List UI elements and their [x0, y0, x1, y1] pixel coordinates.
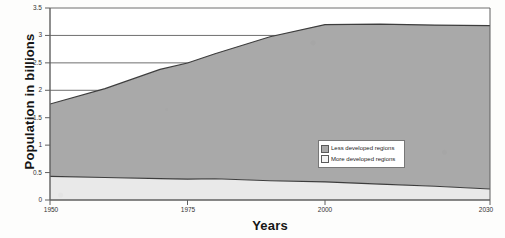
chart-legend: Less developed regions More developed re… [318, 140, 405, 168]
x-tick-label-1950: 1950 [31, 206, 71, 213]
y-tick-label-0: 0 [20, 196, 42, 203]
x-tick-marks [50, 200, 490, 205]
x-tick-label-2000: 2000 [305, 206, 345, 213]
x-tick-label-1975: 1975 [168, 206, 208, 213]
area-chart-canvas [0, 0, 505, 238]
x-tick-label-2030: 2030 [466, 206, 505, 213]
legend-item-more-developed-regions: More developed regions [321, 154, 402, 164]
legend-label-more-developed-regions: More developed regions [331, 156, 395, 163]
chart-figure: 3.5 3 2.5 2 1.5 1 0.5 0 1950 1975 2000 2… [0, 0, 505, 238]
legend-swatch-less-developed-regions [321, 145, 329, 153]
y-tick-label-3-5: 3.5 [20, 4, 42, 11]
legend-label-less-developed-regions: Less developed regions [331, 145, 394, 152]
x-axis-title: Years [50, 218, 490, 233]
legend-swatch-more-developed-regions [321, 155, 329, 163]
y-tick-marks [45, 8, 50, 200]
y-axis-title: Population in billions [22, 12, 37, 192]
legend-item-less-developed-regions: Less developed regions [321, 144, 402, 154]
